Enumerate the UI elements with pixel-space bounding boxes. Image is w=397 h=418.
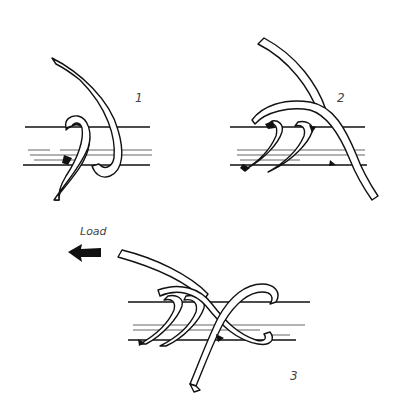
step-2-figure: 2 (230, 38, 378, 200)
load-label: Load (80, 225, 108, 238)
step-3-label: 3 (290, 369, 298, 383)
knot-diagram: 1 2 (0, 0, 397, 418)
step-1-rope-standing-part (52, 58, 122, 177)
load-arrow-icon (68, 244, 101, 262)
step-1-label: 1 (135, 91, 143, 105)
step-1-figure: 1 (23, 58, 152, 200)
step-1-rope-wrap (54, 116, 90, 200)
step-2-rope-turns (240, 121, 336, 172)
step-3-figure: Load 3 (68, 225, 310, 392)
step-2-label: 2 (337, 91, 345, 105)
